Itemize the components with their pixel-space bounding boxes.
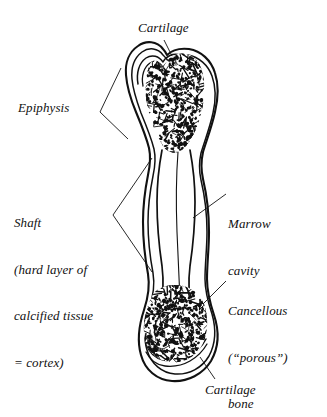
label-cancellous-line-2: (“porous”) [228, 350, 288, 366]
label-cancellous-line-3: bone [228, 396, 288, 412]
bone-outline [126, 42, 218, 381]
label-epiphysis: Epiphysis [18, 100, 69, 116]
label-shaft-line-1: Shaft [14, 215, 93, 231]
label-cancellous-line-1: Cancellous [228, 303, 288, 319]
label-shaft-line-2: (hard layer of [14, 262, 93, 278]
label-shaft: Shaft (hard layer of calcified tissue = … [14, 184, 93, 386]
bracket-epiphysis [100, 68, 128, 139]
label-cartilage-top: Cartilage [138, 20, 189, 36]
label-cartilage-bottom: Cartilage [205, 382, 256, 398]
label-shaft-line-3: calcified tissue [14, 308, 93, 324]
label-marrow-line-1: Marrow [228, 216, 271, 232]
label-shaft-line-4: = cortex) [14, 355, 93, 371]
